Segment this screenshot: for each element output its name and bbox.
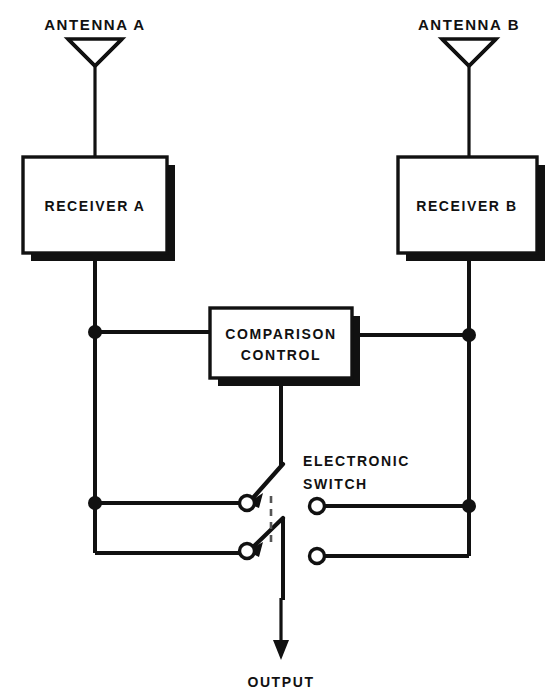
- output-link-group: OUTPUT: [247, 517, 315, 690]
- junction-left-upper: [88, 325, 102, 339]
- comparison-control-box[interactable]: [210, 308, 352, 378]
- switch-terminal-right-lower[interactable]: [310, 549, 325, 564]
- comparison-control-label-line2: CONTROL: [241, 347, 321, 363]
- diagram-svg: ANTENNA A ANTENNA B RECEIVER A RECEI: [0, 0, 558, 695]
- antenna-a-icon: [68, 39, 122, 66]
- electronic-switch-label-line2: SWITCH: [303, 476, 368, 492]
- antenna-a-icon-strut-right: [95, 39, 122, 66]
- block-diagram-canvas: ANTENNA A ANTENNA B RECEIVER A RECEI: [0, 0, 558, 695]
- receiver-a-block[interactable]: RECEIVER A: [23, 157, 175, 261]
- switch-blade-lower[interactable]: [252, 518, 283, 548]
- comparison-control-label-line1: COMPARISON: [225, 326, 336, 342]
- antenna-b-label: ANTENNA B: [418, 16, 520, 33]
- antenna-b-group: ANTENNA B: [418, 16, 520, 157]
- control-link-group: [247, 378, 283, 508]
- antenna-a-group: ANTENNA A: [44, 16, 146, 157]
- junction-right-lower: [462, 499, 476, 513]
- output-label: OUTPUT: [247, 674, 314, 690]
- junction-left-lower: [88, 496, 102, 510]
- left-signal-bus: [95, 253, 243, 553]
- junction-right-upper: [462, 328, 476, 342]
- receiver-b-block[interactable]: RECEIVER B: [398, 157, 545, 261]
- antenna-b-icon-strut-left: [442, 39, 469, 66]
- switch-terminal-left-lower[interactable]: [240, 544, 255, 559]
- antenna-b-icon-strut-right: [469, 39, 496, 66]
- antenna-a-icon-strut-left: [68, 39, 95, 66]
- switch-blade-upper[interactable]: [252, 464, 283, 499]
- switch-terminal-left-upper[interactable]: [240, 496, 255, 511]
- receiver-b-label: RECEIVER B: [416, 198, 518, 214]
- output-arrowhead: [273, 640, 289, 660]
- antenna-a-label: ANTENNA A: [44, 16, 146, 33]
- comparison-control-block[interactable]: COMPARISON CONTROL: [210, 308, 360, 386]
- switch-terminal-right-upper[interactable]: [310, 499, 325, 514]
- electronic-switch-label-line1: ELECTRONIC: [303, 453, 410, 469]
- receiver-a-label: RECEIVER A: [44, 198, 145, 214]
- electronic-switch-label-group: ELECTRONIC SWITCH: [303, 453, 410, 492]
- right-signal-bus: [321, 253, 469, 556]
- antenna-b-icon: [442, 39, 496, 66]
